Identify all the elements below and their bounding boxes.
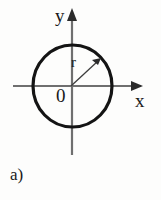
figure-part-label: a) — [10, 166, 23, 183]
radius-label: r — [71, 55, 76, 70]
x-axis-label: x — [135, 91, 145, 110]
origin-label: 0 — [56, 86, 66, 105]
radius-arrowhead — [92, 58, 101, 65]
y-axis-arrowhead — [67, 8, 77, 21]
y-axis-label: y — [55, 6, 65, 25]
figure-panel: y x 0 r a) — [0, 0, 161, 200]
